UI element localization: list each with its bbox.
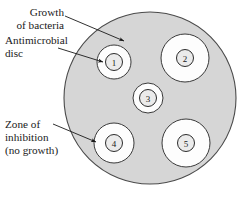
label-growth-of-bacteria-line1: Growth [30, 6, 65, 18]
label-growth-of-bacteria-line2: of bacteria [16, 19, 64, 31]
disc-label-3: 3 [146, 94, 151, 104]
disc-label-5: 5 [184, 139, 189, 149]
label-antimicrobial-disc: Antimicrobial disc [5, 34, 68, 59]
label-growth-of-bacteria: Growth of bacteria [16, 6, 64, 31]
label-zone-of-inhibition: Zone of inhibition (no growth) [5, 118, 58, 157]
label-antimicrobial-disc-line2: disc [5, 47, 23, 59]
label-zone-of-inhibition-line2: inhibition [5, 131, 49, 143]
disc-group-3: 3 [133, 83, 163, 113]
petri-dish-diagram: 1 2 3 4 5 [0, 0, 249, 198]
disc-group-4: 4 [94, 123, 134, 163]
label-antimicrobial-disc-line1: Antimicrobial [5, 34, 68, 46]
disc-label-1: 1 [112, 58, 117, 68]
disc-group-2: 2 [161, 34, 209, 82]
disc-group-5: 5 [162, 119, 210, 167]
disc-label-2: 2 [183, 54, 188, 64]
figure-canvas: 1 2 3 4 5 [0, 0, 249, 198]
disc-label-4: 4 [112, 139, 117, 149]
label-zone-of-inhibition-line3: (no growth) [5, 144, 58, 157]
label-zone-of-inhibition-line1: Zone of [5, 118, 40, 130]
